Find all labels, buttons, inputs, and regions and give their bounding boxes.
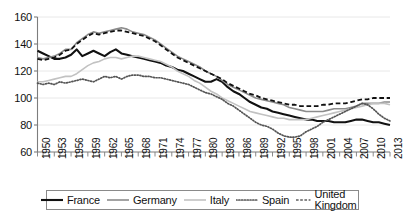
x-tick-label: 1974 bbox=[176, 138, 186, 159]
legend-label: France bbox=[67, 195, 100, 206]
legend-item-france[interactable]: France bbox=[41, 195, 100, 206]
x-tick-label: 1995 bbox=[293, 138, 303, 159]
x-tick-label: 1977 bbox=[193, 138, 203, 159]
y-tick-label: 140 bbox=[2, 39, 32, 50]
axis-lines bbox=[38, 17, 391, 152]
series-line-italy bbox=[38, 56, 391, 119]
legend-item-united-kingdom[interactable]: United Kingdom bbox=[296, 189, 364, 211]
y-tick-label: 60 bbox=[2, 147, 32, 158]
x-tick-label: 1986 bbox=[243, 138, 253, 159]
legend-label: United Kingdom bbox=[315, 189, 365, 211]
x-tick-label: 1989 bbox=[260, 138, 270, 159]
legend-swatch-dashed bbox=[296, 196, 310, 204]
x-tick-label: 2004 bbox=[344, 138, 354, 159]
x-tick-label: 1983 bbox=[226, 138, 236, 159]
x-tick-label: 1956 bbox=[75, 138, 85, 159]
x-tick-label: 1950 bbox=[42, 138, 52, 159]
y-tick-label: 120 bbox=[2, 66, 32, 77]
legend-item-spain[interactable]: Spain bbox=[236, 195, 289, 206]
series-line-spain bbox=[38, 75, 391, 137]
series-line-germany bbox=[38, 28, 391, 112]
legend-swatch-solid bbox=[184, 196, 206, 204]
legend-label: Spain bbox=[262, 195, 289, 206]
legend-swatch-solid bbox=[41, 196, 63, 204]
x-tick-label: 2001 bbox=[327, 138, 337, 159]
legend-swatch-dotted bbox=[236, 196, 258, 204]
x-tick-label: 1980 bbox=[209, 138, 219, 159]
legend-label: Germany bbox=[133, 195, 177, 206]
x-tick-label: 2013 bbox=[394, 138, 404, 159]
x-tick-label: 1965 bbox=[125, 138, 135, 159]
series-line-france bbox=[38, 49, 391, 125]
chart-legend: FranceGermanyItalySpainUnited Kingdom bbox=[46, 190, 359, 210]
legend-item-italy[interactable]: Italy bbox=[184, 195, 229, 206]
x-tick-label: 1971 bbox=[159, 138, 169, 159]
y-tick-label: 160 bbox=[2, 12, 32, 23]
x-tick-label: 2007 bbox=[360, 138, 370, 159]
x-tick-label: 1992 bbox=[277, 138, 287, 159]
x-tick-label: 1998 bbox=[310, 138, 320, 159]
x-tick-label: 1953 bbox=[58, 138, 68, 159]
x-tick-label: 1959 bbox=[92, 138, 102, 159]
legend-swatch-solid bbox=[107, 196, 129, 204]
x-tick-label: 1962 bbox=[109, 138, 119, 159]
legend-item-germany[interactable]: Germany bbox=[107, 195, 177, 206]
x-tick-label: 1968 bbox=[142, 138, 152, 159]
x-tick-label: 2010 bbox=[377, 138, 387, 159]
y-tick-label: 80 bbox=[2, 120, 32, 131]
legend-label: Italy bbox=[210, 195, 229, 206]
y-tick-label: 100 bbox=[2, 93, 32, 104]
